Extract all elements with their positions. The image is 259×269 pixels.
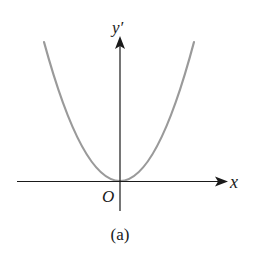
parabola-figure: y′ x O (a) bbox=[0, 0, 259, 269]
figure-caption: (a) bbox=[111, 225, 130, 244]
x-axis-label: x bbox=[229, 172, 238, 192]
y-axis-label: y′ bbox=[110, 18, 124, 37]
origin-label: O bbox=[102, 187, 114, 206]
parabola-curve bbox=[44, 42, 194, 181]
